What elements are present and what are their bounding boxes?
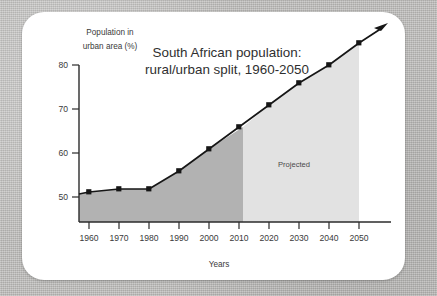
data-point-1970 — [116, 186, 121, 191]
chart-plot-area: 80 70 60 50 1960 1970 1980 1990 — [22, 12, 405, 280]
y-axis-ticks — [72, 65, 79, 197]
trend-line-arrowhead — [374, 23, 388, 31]
figure-card: 80 70 60 50 1960 1970 1980 1990 — [22, 12, 405, 280]
x-tick-label-2030: 2030 — [289, 233, 308, 243]
data-point-1990 — [176, 168, 181, 173]
x-tick-label-2010: 2010 — [229, 233, 248, 243]
data-point-2020 — [266, 102, 271, 107]
data-point-2050 — [356, 40, 361, 45]
data-point-2010 — [236, 124, 241, 129]
y-tick-label-80: 80 — [58, 60, 68, 70]
x-tick-label-2040: 2040 — [319, 233, 338, 243]
y-tick-label-50: 50 — [58, 192, 68, 202]
y-axis-label-line-1: Population in — [86, 28, 134, 37]
x-tick-label-2020: 2020 — [259, 233, 278, 243]
x-axis-label: Years — [209, 260, 230, 269]
projected-annotation: Projected — [278, 160, 310, 169]
data-point-2000 — [206, 146, 211, 151]
x-tick-label-1990: 1990 — [169, 233, 188, 243]
data-point-2040 — [326, 62, 331, 67]
x-tick-label-2000: 2000 — [199, 233, 218, 243]
x-tick-label-1960: 1960 — [79, 233, 98, 243]
y-axis-label-line-2: urban area (%) — [83, 42, 138, 51]
chart-title-line-2: rural/urban split, 1960-2050 — [145, 62, 309, 77]
data-point-1960 — [86, 189, 91, 194]
y-tick-label-70: 70 — [58, 104, 68, 114]
data-point-1980 — [146, 186, 151, 191]
x-tick-label-1970: 1970 — [109, 233, 128, 243]
y-tick-label-60: 60 — [58, 148, 68, 158]
x-tick-label-1980: 1980 — [139, 233, 158, 243]
x-axis-ticks — [89, 222, 359, 229]
chart-title-line-1: South African population: — [153, 45, 302, 60]
x-tick-label-2050: 2050 — [349, 233, 368, 243]
data-point-2030 — [296, 80, 301, 85]
